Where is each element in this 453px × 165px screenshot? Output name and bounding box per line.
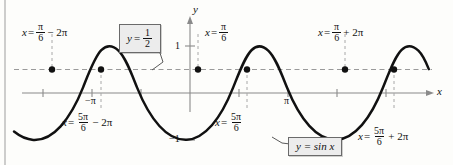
sol-2-numerator: π (219, 22, 228, 32)
y-axis-arrowhead (187, 16, 193, 24)
sol-5-denominator: 6 (375, 136, 384, 147)
sol-1-denominator: 6 (79, 122, 88, 133)
sol-4-eq: = (324, 27, 330, 38)
callout-0-numerator: 1 (143, 28, 152, 38)
sol-3-fraction: 5π 6 (229, 112, 243, 133)
intersection-points (49, 66, 397, 72)
sol-2-lhs: x (205, 27, 210, 38)
callout-0-eq: = (134, 33, 140, 44)
y-one-half-callout: y = 1 2 (119, 24, 161, 53)
callout-1-text: y = sin x (296, 141, 334, 152)
sol-0-fraction: π 6 (36, 22, 45, 43)
callout-0-lhs: y (127, 33, 132, 44)
sol-0-eq: = (28, 27, 34, 38)
sol-pi6: x = π 6 (205, 22, 230, 43)
y-tick-label-1: 1 (175, 40, 180, 51)
sol-5pi6: x = 5π 6 (215, 112, 245, 133)
x-axis-arrowhead (426, 90, 434, 96)
sol-2-denominator: 6 (219, 32, 228, 43)
sol-4-lhs: x (318, 27, 323, 38)
sol-5-tail: + 2π (388, 131, 408, 142)
sol-5pi6-plus-2pi: x = 5π 6 + 2π (358, 126, 408, 147)
sol-5-eq: = (364, 131, 370, 142)
sol-1-tail: − 2π (92, 117, 112, 128)
sol-1-eq: = (68, 117, 74, 128)
sol-2-fraction: π 6 (219, 22, 228, 43)
sol-1-fraction: 5π 6 (76, 112, 90, 133)
callout-0-fraction: 1 2 (143, 28, 152, 49)
sol-3-lhs: x (215, 117, 220, 128)
y-axis-label: y (193, 3, 198, 15)
sol-3-eq: = (221, 117, 227, 128)
y-tick-label-neg1: −1 (169, 133, 180, 144)
solution-guide-lines (52, 34, 394, 110)
x-axis-label: x (437, 85, 442, 97)
sol-3-numerator: 5π (229, 112, 243, 122)
y-equals-sin-x-callout: y = sin x (288, 137, 342, 156)
sol-4-fraction: π 6 (332, 22, 341, 43)
sol-1-numerator: 5π (76, 112, 90, 122)
x-tick-label-pi: π (284, 95, 289, 106)
x-tick-label-neg-pi: −π (85, 95, 96, 106)
sol-5-fraction: 5π 6 (372, 126, 386, 147)
sol-0-denominator: 6 (36, 32, 45, 43)
sol-5pi6-minus-2pi: x = 5π 6 − 2π (62, 112, 112, 133)
sol-0-tail: − 2π (47, 27, 67, 38)
sine-equation-graph-figure: x y 1 −1 −π π x = π 6 − 2π x = 5π 6 − 2π… (0, 0, 453, 165)
sol-5-lhs: x (358, 131, 363, 142)
sol-4-denominator: 6 (332, 32, 341, 43)
callout-0-denominator: 2 (143, 38, 152, 49)
sol-0-numerator: π (36, 22, 45, 32)
sol-4-numerator: π (332, 22, 341, 32)
sol-4-tail: + 2π (343, 27, 363, 38)
sol-0-lhs: x (22, 27, 27, 38)
sol-5-numerator: 5π (372, 126, 386, 136)
sol-2-eq: = (211, 27, 217, 38)
sol-3-denominator: 6 (232, 122, 241, 133)
sol-pi6-minus-2pi: x = π 6 − 2π (22, 22, 67, 43)
sol-pi6-plus-2pi: x = π 6 + 2π (318, 22, 363, 43)
sol-1-lhs: x (62, 117, 67, 128)
